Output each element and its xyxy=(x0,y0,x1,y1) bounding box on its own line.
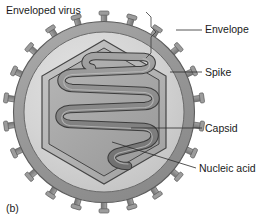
label-spike: Spike xyxy=(205,66,231,78)
virus-diagram-svg: Enveloped virus (b) Envelope Spike Capsi… xyxy=(0,0,266,222)
enveloped-virus-figure: Enveloped virus (b) Envelope Spike Capsi… xyxy=(0,0,266,222)
label-capsid: Capsid xyxy=(205,122,238,134)
label-envelope: Envelope xyxy=(205,23,249,35)
panel-letter: (b) xyxy=(6,202,19,214)
label-nucleic-acid: Nucleic acid xyxy=(199,162,256,174)
figure-title: Enveloped virus xyxy=(6,4,81,16)
